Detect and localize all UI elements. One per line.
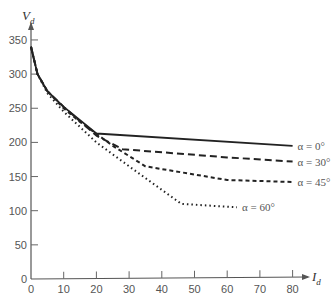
x-axis-arrow-icon [302,274,310,280]
series-label-1: α = 30° [298,156,331,168]
series-line-0 [31,47,293,146]
series-group [31,47,293,208]
y-tick-label: 350 [9,34,27,46]
x-tick-label: 40 [156,283,168,295]
y-tick-label: 300 [9,68,27,80]
series-label-2: α = 45° [298,176,331,188]
x-tick-label: 20 [90,283,102,295]
x-axis-line [31,277,308,279]
y-tick-label: 50 [15,239,27,251]
axes: 05010015020025030035001020304050607080 [9,22,310,295]
series-labels: α = 0°α = 30°α = 45°α = 60° [242,140,330,213]
x-tick-label: 60 [221,283,233,295]
x-tick-label: 0 [28,283,34,295]
vd-vs-id-chart: 05010015020025030035001020304050607080 α… [0,0,331,296]
x-tick-label: 50 [188,283,200,295]
series-line-3 [31,47,237,208]
y-tick-label: 150 [9,171,27,183]
y-tick-label: 200 [9,136,27,148]
series-line-1 [31,47,293,162]
y-tick-label: 100 [9,205,27,217]
series-label-3: α = 60° [242,201,275,213]
x-tick-label: 70 [254,283,266,295]
series-label-0: α = 0° [298,140,325,152]
x-axis-title: Id [311,269,321,287]
y-tick-label: 0 [21,273,27,285]
x-tick-label: 80 [286,283,298,295]
series-line-2 [31,47,293,182]
y-tick-label: 250 [9,102,27,114]
x-tick-label: 10 [58,283,70,295]
y-axis-title: Vd [22,8,35,26]
x-tick-label: 30 [123,283,135,295]
